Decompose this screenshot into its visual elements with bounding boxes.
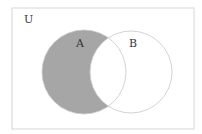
universe-label: U — [24, 13, 33, 26]
set-a-label: A — [75, 37, 85, 50]
set-a-shaded-region — [42, 30, 126, 114]
set-b-label: B — [129, 37, 137, 50]
venn-diagram: U A B — [0, 0, 202, 134]
